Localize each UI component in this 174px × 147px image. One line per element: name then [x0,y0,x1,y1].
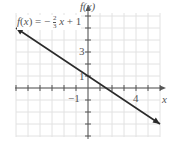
y-axis-label: f(x) [80,1,95,12]
x-axis-label: x [162,94,167,105]
frac-den: 3 [53,22,57,30]
frac-num: 2 [53,15,57,22]
tick-label-y-1: 1 [79,71,85,82]
equation-label: f(x) = − 23 x + 1 [17,15,81,30]
tick-label-x-4: 4 [133,93,139,104]
tick-label-x-neg1: −1 [68,93,80,104]
tick-label-y-3: 3 [79,46,85,57]
